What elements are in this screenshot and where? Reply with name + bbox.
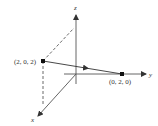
- point-label-p1: (2, 0, 2): [14, 58, 37, 66]
- coordinate-diagram: z y x (2, 0, 2) (0, 2, 0): [0, 0, 158, 126]
- segment-p1-p2: [43, 61, 122, 74]
- point-2-0-2: [41, 59, 45, 63]
- z-axis: z: [73, 4, 77, 84]
- point-label-p2: (0, 2, 0): [109, 78, 132, 86]
- x-axis: x: [30, 74, 76, 124]
- y-axis-label: y: [148, 71, 153, 79]
- x-axis-label: x: [30, 116, 35, 124]
- point-0-2-0: [120, 72, 124, 76]
- z-axis-label: z: [73, 4, 77, 12]
- dashed-line-to-z: [43, 28, 74, 61]
